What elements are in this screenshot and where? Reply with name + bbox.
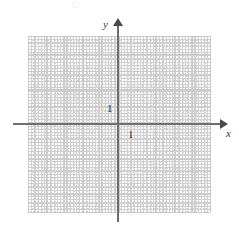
minor-gridline-horizontal — [28, 128, 210, 129]
minor-gridline-horizontal — [28, 58, 210, 59]
minor-gridline-horizontal — [28, 67, 210, 68]
minor-gridline-horizontal — [28, 172, 210, 173]
minor-gridline-horizontal — [28, 199, 210, 200]
minor-gridline-horizontal — [28, 76, 210, 77]
major-gridline-horizontal — [28, 89, 210, 90]
minor-gridline-horizontal — [28, 84, 210, 85]
minor-gridline-horizontal — [28, 137, 210, 138]
major-gridline-horizontal — [28, 212, 210, 213]
minor-gridline-horizontal — [28, 133, 210, 134]
minor-gridline-horizontal — [28, 115, 210, 116]
minor-gridline-horizontal — [28, 146, 210, 147]
minor-gridline-horizontal — [28, 203, 210, 204]
minor-gridline-horizontal — [28, 155, 210, 156]
y-axis-unit-label: 1 — [107, 103, 113, 114]
y-axis-label: y — [103, 19, 108, 30]
minor-gridline-horizontal — [28, 98, 210, 99]
y-axis-arrow-icon — [113, 18, 123, 26]
minor-gridline-horizontal — [28, 49, 210, 50]
x-axis-unit-label: 1 — [128, 129, 134, 140]
minor-gridline-horizontal — [28, 120, 210, 121]
y-axis-line — [117, 26, 119, 222]
minor-gridline-horizontal — [28, 190, 210, 191]
major-gridline-horizontal — [28, 159, 210, 160]
stray-mark-icon — [72, 1, 79, 8]
major-gridline-horizontal — [28, 142, 210, 143]
major-gridline-horizontal — [28, 194, 210, 195]
minor-gridline-horizontal — [28, 93, 210, 94]
minor-gridline-horizontal — [28, 80, 210, 81]
minor-gridline-horizontal — [28, 181, 210, 182]
minor-gridline-horizontal — [28, 102, 210, 103]
major-gridline-horizontal — [28, 71, 210, 72]
minor-gridline-horizontal — [28, 45, 210, 46]
minor-gridline-horizontal — [28, 168, 210, 169]
x-axis-label: x — [226, 128, 231, 139]
minor-gridline-horizontal — [28, 111, 210, 112]
major-gridline-horizontal — [28, 106, 210, 107]
minor-gridline-horizontal — [28, 208, 210, 209]
minor-gridline-horizontal — [28, 150, 210, 151]
major-gridline-horizontal — [28, 54, 210, 55]
minor-gridline-horizontal — [28, 186, 210, 187]
coordinate-grid-figure: y x 1 1 — [0, 0, 239, 236]
minor-gridline-horizontal — [28, 62, 210, 63]
major-gridline-horizontal — [28, 177, 210, 178]
minor-gridline-horizontal — [28, 40, 210, 41]
minor-gridline-horizontal — [28, 164, 210, 165]
major-gridline-horizontal — [28, 36, 210, 37]
